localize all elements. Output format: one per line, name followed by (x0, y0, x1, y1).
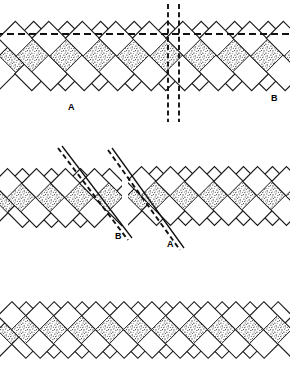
figure-svg: A B B A (0, 0, 290, 368)
panel-upper-label-B: B (271, 93, 278, 103)
panel-upper-label-A: A (68, 102, 75, 112)
figure-panel-stack: A B B A (0, 0, 290, 368)
panel-lower-diagram (0, 302, 290, 359)
panel-middle-label-A: A (167, 239, 174, 249)
panel-middle-label-B: B (115, 231, 122, 241)
